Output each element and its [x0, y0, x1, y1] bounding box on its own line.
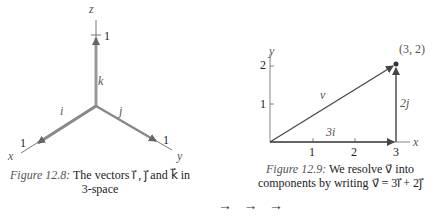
j-vector-label: j⃗ — [119, 104, 132, 118]
z-tick-label: 1 — [104, 29, 110, 43]
y-tick-1: 1 — [260, 97, 266, 111]
x-tick-2: 2 — [351, 145, 357, 159]
2j-vector-label: 2j⃗ — [400, 96, 419, 110]
y-axis-label: y — [177, 149, 182, 163]
figure-12-8-caption: Figure 12.8: The vectors i⃗ , j⃗ and k⃗ … — [0, 168, 200, 196]
x-tick-3: 3 — [393, 145, 399, 159]
figure-12-8-diagram — [21, 20, 172, 153]
v-vector-label: v⃗ — [320, 88, 335, 102]
i-vector-label: i⃗ — [60, 104, 73, 118]
x-axis-label: x — [8, 149, 13, 163]
caption-text-2: 3-space — [82, 182, 119, 196]
x-tick-1: 1 — [309, 145, 315, 159]
x-tick-label: 1 — [20, 136, 26, 150]
caption-text-1: The vectors i⃗ , j⃗ and k⃗ in — [73, 168, 190, 182]
k-vector-label: k⃗ — [98, 74, 113, 88]
point-3-2 — [394, 62, 399, 67]
point-label: (3, 2) — [399, 42, 425, 56]
y-tick-2: 2 — [260, 58, 266, 72]
y-tick-label: 1 — [163, 133, 169, 147]
z-axis-label: z — [89, 2, 94, 16]
caption-label: Figure 12.9: — [266, 162, 326, 176]
caption-label: Figure 12.8: — [10, 168, 70, 182]
3i-vector-label: 3i⃗ — [326, 125, 345, 139]
figure-12-9-caption: Figure 12.9: We resolve v⃗ into componen… — [240, 162, 440, 190]
caption-text-1: We resolve v⃗ into — [329, 162, 414, 176]
caption-text-2: components by writing v⃗ = 3i⃗ + 2j⃗ — [258, 176, 422, 190]
y-axis-label: y — [269, 44, 274, 58]
footer-arrows: → → → — [218, 199, 287, 213]
x-axis-label: x — [413, 135, 418, 149]
